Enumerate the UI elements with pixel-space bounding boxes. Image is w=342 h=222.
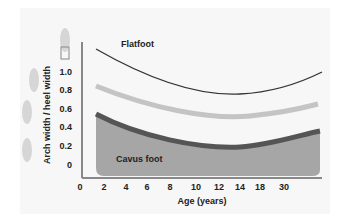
svg-text:0.8: 0.8 [59, 85, 72, 95]
arch-index-chart: 1.0 0.8 0.6 0.4 0.2 0 0 2 4 6 8 10 12 14… [0, 0, 342, 222]
y-axis-title: Arch width / heel width [42, 66, 52, 164]
svg-text:0.4: 0.4 [59, 122, 72, 132]
svg-text:0: 0 [67, 160, 72, 170]
svg-text:0.2: 0.2 [59, 141, 72, 151]
cavus-foot-label: Cavus foot [116, 154, 163, 164]
svg-text:6: 6 [144, 182, 149, 192]
svg-text:2: 2 [101, 182, 106, 192]
normal-line [96, 86, 318, 117]
svg-text:8: 8 [167, 182, 172, 192]
svg-text:18: 18 [255, 182, 265, 192]
x-axis-title: Age (years) [177, 196, 226, 206]
x-tick-labels: 0 2 4 6 8 10 12 14 18 30 [77, 182, 289, 192]
flatfoot-boundary-line [96, 49, 322, 94]
svg-text:4: 4 [123, 182, 128, 192]
svg-text:1.0: 1.0 [59, 67, 72, 77]
svg-text:10: 10 [191, 182, 201, 192]
svg-text:12: 12 [214, 182, 224, 192]
svg-text:0.6: 0.6 [59, 104, 72, 114]
y-tick-labels: 1.0 0.8 0.6 0.4 0.2 0 [59, 67, 72, 170]
svg-text:30: 30 [279, 182, 289, 192]
svg-text:14: 14 [235, 182, 245, 192]
svg-text:0: 0 [77, 182, 82, 192]
flatfoot-label: Flatfoot [121, 39, 154, 49]
